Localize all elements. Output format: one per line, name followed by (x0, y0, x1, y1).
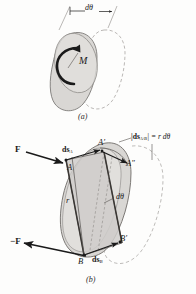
panel-b (24, 138, 163, 264)
label-ds-b-subscript: B (100, 259, 103, 264)
label-ds-b-main: ds (92, 255, 100, 264)
label-moment-m: M (79, 56, 87, 66)
label-ds-a-main: ds (62, 145, 70, 154)
label-relative-displacement: |dsA/B| = r dθ (131, 133, 170, 142)
label-dtheta-b: dθ (116, 193, 124, 201)
label-ds-b: dsB (92, 256, 103, 265)
label-rel-disp-subscript: A/B (140, 136, 147, 141)
dim-ext-left (59, 6, 70, 30)
label-point-b-prime: B′ (120, 234, 127, 243)
label-ds-a: dsA (62, 146, 73, 155)
caption-a: (a) (78, 113, 87, 121)
caption-b: (b) (86, 276, 95, 284)
label-force-f: F (15, 145, 21, 154)
force-f-arrow (26, 152, 63, 163)
point-a-prime-dot (101, 150, 104, 153)
label-point-b: B (78, 257, 83, 266)
label-dtheta-a: dθ (85, 4, 93, 12)
label-radius-r: r (66, 196, 69, 205)
label-point-a-prime: A′ (98, 138, 105, 147)
label-point-a-double-prime: A″ (126, 159, 135, 168)
label-force-minus-f: −F (10, 237, 21, 246)
label-rel-disp-tail: | = r dθ (147, 132, 170, 141)
dim-ext-right (108, 6, 117, 28)
virtual-work-figure (0, 0, 196, 294)
label-ds-a-subscript: A (70, 149, 73, 154)
label-rel-disp-head: |ds (131, 132, 140, 141)
label-point-a: A (67, 163, 72, 172)
relative-displacement-leader (119, 138, 131, 142)
